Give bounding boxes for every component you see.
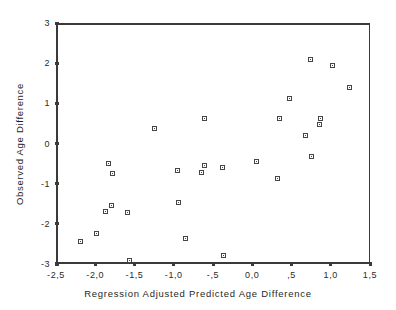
x-tick-label: -1,0	[165, 270, 183, 280]
y-tick-label: 3	[34, 18, 50, 28]
data-point	[309, 154, 314, 159]
y-tick-label: 0	[34, 139, 50, 149]
y-tick-mark	[55, 102, 59, 105]
data-point	[287, 96, 292, 101]
data-point	[202, 116, 207, 121]
x-tick-label: -,5	[207, 270, 219, 280]
data-point	[176, 200, 181, 205]
data-points-layer	[58, 25, 369, 262]
y-tick-mark	[55, 222, 59, 225]
y-tick-mark	[55, 62, 59, 65]
data-point	[277, 116, 282, 121]
x-tick-mark	[251, 262, 254, 266]
data-point	[221, 253, 226, 258]
data-point	[94, 231, 99, 236]
data-point	[103, 209, 108, 214]
scatter-plot-figure: -2,5-2,0-1,5-1,0-,50,0,51,01,5 3210-1-2-…	[0, 0, 396, 310]
y-tick-label: 1	[34, 98, 50, 108]
data-point	[110, 171, 115, 176]
x-tick-mark	[290, 262, 293, 266]
data-point	[347, 85, 352, 90]
data-point	[152, 126, 157, 131]
x-tick-label: -1,5	[126, 270, 144, 280]
y-tick-mark	[55, 22, 59, 25]
data-point	[175, 168, 180, 173]
x-tick-label: -2,0	[86, 270, 104, 280]
x-tick-label: 1,5	[363, 270, 377, 280]
x-tick-mark	[172, 262, 175, 266]
data-point	[330, 63, 335, 68]
x-tick-label: 1,0	[324, 270, 338, 280]
y-tick-label: -3	[34, 259, 50, 269]
y-tick-mark	[55, 142, 59, 145]
data-point	[125, 210, 130, 215]
data-point	[254, 159, 259, 164]
data-point	[199, 170, 204, 175]
x-tick-label: ,5	[287, 270, 296, 280]
data-point	[78, 239, 83, 244]
y-tick-label: -2	[34, 219, 50, 229]
data-point	[127, 258, 132, 263]
x-tick-label: -2,5	[47, 270, 65, 280]
x-tick-mark	[329, 262, 332, 266]
x-axis-title: Regression Adjusted Predicted Age Differ…	[0, 288, 396, 299]
x-tick-mark	[212, 262, 215, 266]
y-tick-mark	[55, 263, 59, 266]
data-point	[308, 57, 313, 62]
data-point	[220, 165, 225, 170]
data-point	[318, 116, 323, 121]
y-tick-label: 2	[34, 58, 50, 68]
x-tick-label: 0,0	[245, 270, 259, 280]
x-tick-mark	[94, 262, 97, 266]
data-point	[183, 236, 188, 241]
data-point	[303, 133, 308, 138]
data-point	[106, 161, 111, 166]
y-axis-title-wrap: Observed Age Difference	[12, 23, 26, 264]
y-tick-label: -1	[34, 179, 50, 189]
y-axis-title: Observed Age Difference	[14, 82, 25, 204]
x-tick-mark	[133, 262, 136, 266]
plot-area	[56, 23, 370, 264]
data-point	[317, 122, 322, 127]
data-point	[275, 176, 280, 181]
data-point	[109, 203, 114, 208]
y-tick-mark	[55, 182, 59, 185]
x-tick-mark	[369, 262, 372, 266]
data-point	[202, 163, 207, 168]
